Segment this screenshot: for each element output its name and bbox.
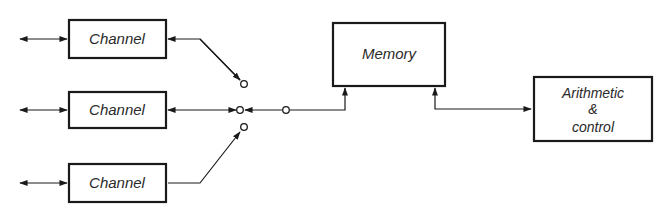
channel-label-1: Channel	[89, 30, 146, 47]
switch-contact-1	[241, 81, 248, 88]
channel-box-2: Channel	[69, 92, 166, 128]
memory-to-arithmetic	[435, 88, 531, 109]
arithmetic-label-line-1: Arithmetic	[561, 85, 624, 101]
switch-to-channel-1	[168, 39, 240, 80]
switch-contact-3	[241, 124, 248, 131]
channel-box-3: Channel	[69, 164, 166, 202]
memory-label: Memory	[362, 45, 418, 62]
switch-pivot	[283, 107, 290, 114]
switch-contact-2	[237, 107, 244, 114]
switch-to-memory	[290, 88, 345, 110]
channel-1-to-contact	[200, 39, 240, 80]
channel-memory-diagram: Channel Channel Channel Memory Arithmeti…	[0, 0, 668, 216]
arithmetic-label-line-2: &	[588, 101, 597, 117]
channel-box-1: Channel	[69, 20, 166, 58]
arithmetic-label-line-3: control	[572, 119, 615, 135]
memory-box: Memory	[333, 23, 445, 86]
channel-3-to-contact	[168, 132, 240, 183]
channel-label-3: Channel	[89, 174, 146, 191]
channel-label-2: Channel	[89, 101, 146, 118]
arithmetic-control-box: Arithmetic & control	[534, 77, 652, 141]
